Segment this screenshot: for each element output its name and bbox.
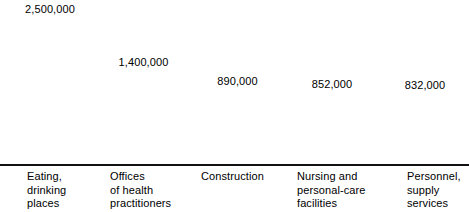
category-label: Offices of health practitioners [110, 170, 171, 211]
baseline-axis-rule [0, 164, 469, 166]
bar-group: 852,000 [292, 94, 372, 166]
category-label: Nursing and personal-care facilities [297, 170, 366, 211]
bar-value-label: 852,000 [312, 78, 352, 90]
category-label: Personnel, supply services [407, 170, 461, 211]
bar-value-label: 890,000 [217, 75, 257, 87]
category-axis: Eating, drinking places Offices of healt… [0, 170, 469, 212]
bar-chart-figure: 2,500,000 1,400,000 890,000 852,000 832,… [0, 0, 469, 212]
bar-value-label: 2,500,000 [25, 3, 75, 15]
bar-value-label: 1,400,000 [119, 56, 169, 68]
category-label: Construction [201, 170, 264, 184]
plot-area: 2,500,000 1,400,000 890,000 852,000 832,… [0, 0, 469, 166]
bar-group: 890,000 [196, 91, 279, 166]
bar-group: 2,500,000 [7, 19, 93, 166]
bar-group: 832,000 [385, 95, 465, 166]
bar-value-label: 832,000 [405, 79, 445, 91]
category-label: Eating, drinking places [27, 170, 66, 211]
bar-group: 1,400,000 [104, 72, 183, 166]
